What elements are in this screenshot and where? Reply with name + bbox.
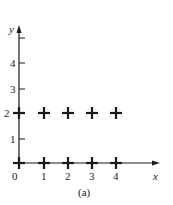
point-marker-icon — [13, 107, 25, 119]
point-marker-icon — [86, 107, 98, 119]
x-tick-label-3: 3 — [89, 170, 95, 182]
x-axis-label: x — [152, 170, 158, 182]
y-tick-label-4: 4 — [10, 57, 16, 69]
y-tick-label-3: 3 — [10, 83, 16, 95]
x-axis-arrow-icon — [152, 161, 160, 166]
y-axis-arrow-icon — [17, 25, 22, 33]
x-tick-label-4: 4 — [113, 170, 119, 182]
y-tick-label-1: 1 — [10, 133, 16, 145]
data-points — [13, 107, 122, 169]
y-ticks — [19, 38, 25, 139]
point-marker-icon — [38, 157, 50, 169]
x-tick-label-2: 2 — [65, 170, 71, 182]
point-marker-icon — [62, 157, 74, 169]
y-tick-label-2: 2 — [4, 107, 10, 119]
point-marker-icon — [62, 107, 74, 119]
point-marker-icon — [86, 157, 98, 169]
chart: y 4 3 2 1 0 1 2 3 4 x (a) — [0, 0, 173, 205]
y-axis-label: y — [8, 23, 14, 35]
x-tick-label-0: 0 — [12, 170, 18, 182]
figure-caption: (a) — [78, 186, 91, 199]
x-tick-label-1: 1 — [41, 170, 47, 182]
point-marker-icon — [110, 157, 122, 169]
point-marker-icon — [13, 157, 25, 169]
point-marker-icon — [110, 107, 122, 119]
point-marker-icon — [38, 107, 50, 119]
